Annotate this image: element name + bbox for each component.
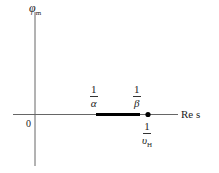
diagram-canvas [0,0,219,173]
point-dot [145,112,150,117]
y-axis-label: φm [29,2,41,17]
marker-beta: 1 β [133,84,141,109]
marker-alpha: 1 α [90,84,98,109]
marker-vh: 1 υH [142,121,152,149]
origin-label: 0 [26,119,31,129]
x-axis-label: Re s [181,109,200,120]
